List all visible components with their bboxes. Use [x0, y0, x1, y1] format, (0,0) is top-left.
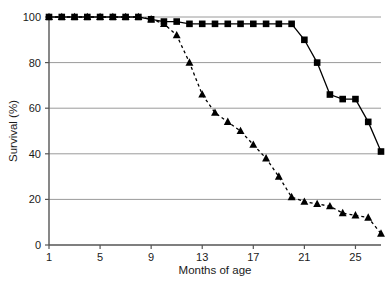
y-tick-label-100: 100: [23, 11, 41, 23]
x-tick-label-9: 9: [148, 251, 154, 263]
marker-square-11: [173, 18, 180, 25]
marker-square-21: [301, 37, 308, 44]
marker-triangle-12: [186, 58, 194, 65]
marker-square-26: [365, 119, 372, 126]
x-axis-title: Months of age: [179, 264, 252, 276]
chart-figure: 020406080100 15913172125 Survival (%) Mo…: [0, 0, 390, 281]
marker-square-20: [288, 21, 295, 28]
marker-triangle-23: [326, 202, 334, 209]
marker-triangle-14: [211, 108, 219, 115]
marker-triangle-24: [339, 209, 347, 216]
marker-square-27: [378, 148, 385, 155]
marker-square-19: [276, 21, 283, 28]
y-tick-label-0: 0: [35, 239, 41, 251]
marker-triangle-15: [224, 118, 232, 125]
y-tick-label-40: 40: [29, 148, 41, 160]
x-tick-label-13: 13: [196, 251, 208, 263]
gridlines: [49, 17, 381, 199]
series-line-square-series: [49, 17, 381, 152]
marker-square-12: [186, 21, 193, 28]
y-tick-labels: 020406080100: [23, 11, 41, 251]
marker-square-23: [327, 91, 334, 98]
y-axis: [45, 17, 49, 245]
series-square-series: [46, 14, 385, 155]
marker-triangle-21: [300, 197, 308, 204]
marker-square-16: [237, 21, 244, 28]
marker-square-17: [250, 21, 257, 28]
marker-triangle-22: [313, 200, 321, 207]
x-tick-label-1: 1: [46, 251, 52, 263]
marker-square-15: [224, 21, 231, 28]
marker-square-24: [339, 96, 346, 103]
x-tick-label-21: 21: [298, 251, 310, 263]
x-tick-label-17: 17: [247, 251, 259, 263]
series-line-triangle-series: [49, 17, 381, 234]
x-axis: [49, 245, 381, 249]
marker-triangle-26: [364, 213, 372, 220]
marker-square-14: [212, 21, 219, 28]
marker-square-25: [352, 96, 359, 103]
marker-triangle-25: [352, 211, 360, 218]
x-tick-label-5: 5: [97, 251, 103, 263]
marker-square-13: [199, 21, 206, 28]
marker-triangle-27: [377, 229, 385, 236]
survival-curve-chart: 020406080100 15913172125 Survival (%) Mo…: [0, 0, 390, 281]
marker-triangle-20: [288, 193, 296, 200]
x-tick-label-25: 25: [349, 251, 361, 263]
series-triangle-series: [45, 13, 385, 237]
x-tick-labels: 15913172125: [46, 251, 362, 263]
y-tick-label-60: 60: [29, 102, 41, 114]
y-tick-label-20: 20: [29, 193, 41, 205]
marker-triangle-16: [237, 127, 245, 134]
marker-square-22: [314, 59, 321, 66]
marker-triangle-13: [198, 90, 206, 97]
marker-square-18: [263, 21, 270, 28]
data-series: [45, 13, 385, 237]
y-tick-label-80: 80: [29, 57, 41, 69]
y-axis-title: Survival (%): [7, 100, 19, 162]
